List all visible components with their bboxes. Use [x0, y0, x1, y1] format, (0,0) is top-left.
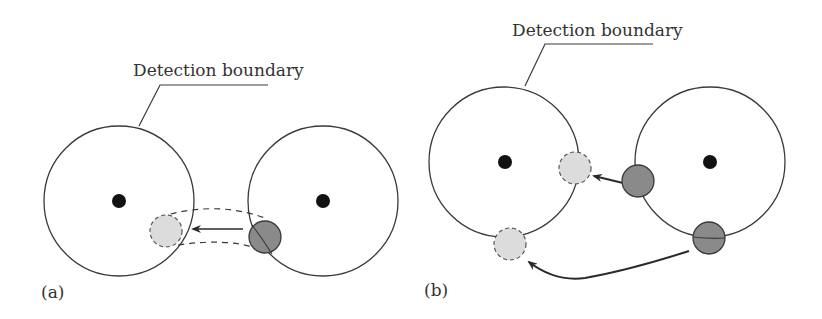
- leader-line-b: [525, 44, 653, 86]
- movement-arrow-b2: [529, 251, 689, 279]
- target-current-position-b1: [622, 165, 654, 197]
- panel-a: Detection boundary (a): [41, 60, 398, 302]
- dashed-path-bottom-a: [178, 242, 256, 248]
- detection-boundary-label-a: Detection boundary: [133, 60, 304, 80]
- panel-label-b: (b): [424, 280, 448, 300]
- panel-b: Detection boundary (b): [424, 20, 785, 300]
- leader-line-a: [139, 85, 268, 126]
- sensor-node-left-b: [498, 155, 512, 169]
- panel-label-a: (a): [41, 282, 64, 302]
- movement-arrow-b1: [594, 176, 623, 183]
- target-current-position-a: [249, 221, 281, 253]
- target-predicted-position-b1: [559, 152, 591, 184]
- target-predicted-position-a: [150, 215, 182, 247]
- sensor-node-left-a: [112, 194, 126, 208]
- sensor-node-right-b: [703, 155, 717, 169]
- sensor-node-right-a: [316, 194, 330, 208]
- detection-boundary-diagram: Detection boundary (a) Detection boundar…: [0, 0, 822, 319]
- detection-boundary-label-b: Detection boundary: [512, 20, 683, 40]
- target-predicted-position-b2: [494, 228, 526, 260]
